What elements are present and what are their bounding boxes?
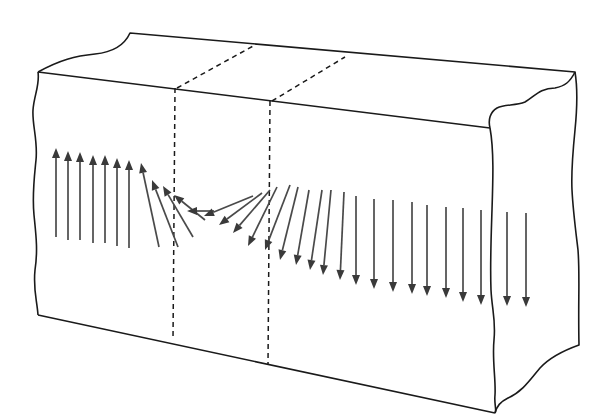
magnetization-arrow-icon	[64, 151, 72, 240]
magnetization-arrow-icon	[219, 193, 262, 225]
magnetization-arrow-icon	[336, 192, 344, 280]
block-left-edge	[33, 72, 39, 315]
magnetization-arrow-icon	[352, 196, 360, 285]
magnetization-arrow-icon	[308, 190, 322, 270]
block-front-top-edge	[38, 72, 490, 128]
magnetization-arrow-icon	[294, 190, 309, 265]
magnetization-arrow-icon	[389, 200, 397, 292]
wall-boundary-1-front	[173, 88, 175, 340]
domain-wall-diagram	[0, 0, 607, 420]
magnetization-arrow-icon	[279, 187, 298, 260]
magnetization-arrow-icon	[113, 158, 121, 246]
magnetization-arrow-icon	[89, 155, 97, 243]
wall-boundary-1-top	[177, 45, 255, 88]
magnetization-arrow-icon	[320, 190, 331, 275]
magnetization-arrow-icon	[370, 199, 378, 289]
magnetization-arrow-icon	[139, 163, 159, 247]
wall-boundary-2-front	[268, 101, 270, 365]
magnetization-arrow-icon	[125, 160, 133, 248]
block-front-bottom-edge	[38, 315, 495, 413]
magnetization-arrow-icon	[423, 205, 431, 296]
magnetization-arrow-icon	[76, 152, 84, 240]
magnetization-arrow-icon	[101, 155, 109, 243]
magnetization-arrow-icon	[408, 202, 416, 294]
wall-boundary-2-top	[272, 57, 345, 101]
magnetization-arrow-icon	[52, 148, 60, 237]
magnetization-arrows	[52, 148, 530, 307]
magnetization-arrow-icon	[174, 195, 205, 220]
block-front-right-edge	[490, 128, 496, 413]
magnetization-arrow-icon	[503, 212, 511, 306]
magnetization-arrow-icon	[442, 207, 450, 298]
diagram-canvas	[0, 0, 607, 420]
magnetization-arrow-icon	[522, 213, 530, 307]
magnetization-arrow-icon	[477, 210, 485, 305]
magnetization-arrow-icon	[459, 208, 467, 302]
